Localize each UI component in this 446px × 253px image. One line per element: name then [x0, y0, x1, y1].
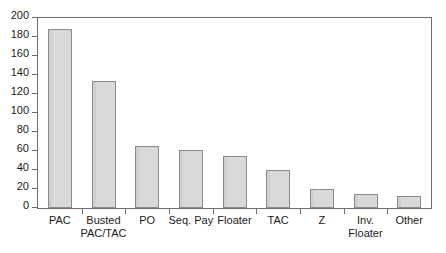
bar: [223, 156, 247, 208]
bar: [92, 81, 116, 208]
x-axis-labels: PACBusted PAC/TACPOSeq. PayFloaterTACZIn…: [38, 214, 431, 252]
x-axis-category-label: Other: [381, 214, 437, 227]
bar-highlight: [224, 157, 227, 207]
bar: [135, 146, 159, 208]
y-axis-tick-label: 140: [11, 67, 29, 78]
y-axis-tick-label: 60: [17, 143, 29, 154]
y-axis-tick-label: 120: [11, 86, 29, 97]
y-axis-tick-label: 0: [23, 200, 29, 211]
y-axis-tick-label: 80: [17, 124, 29, 135]
bar: [310, 189, 334, 208]
bar-highlight: [311, 190, 314, 207]
y-axis-tick-label: 20: [17, 181, 29, 192]
bar: [397, 196, 421, 208]
bar-highlight: [180, 151, 183, 207]
bar-highlight: [398, 197, 401, 207]
y-axis-tick-label: 160: [11, 48, 29, 59]
bar: [48, 29, 72, 208]
bar: [354, 194, 378, 208]
y-axis: 020406080100120140160180200: [0, 17, 37, 209]
bar: [179, 150, 203, 208]
y-axis-tick-label: 180: [11, 29, 29, 40]
bars-container: [38, 18, 431, 208]
bar-highlight: [136, 147, 139, 207]
bar-highlight: [49, 30, 52, 207]
y-axis-tick-label: 40: [17, 162, 29, 173]
bar-highlight: [355, 195, 358, 207]
bar: [266, 170, 290, 208]
bar-highlight: [93, 82, 96, 207]
y-axis-tick-label: 100: [11, 105, 29, 116]
y-axis-tick-label: 200: [11, 10, 29, 21]
bar-chart: 020406080100120140160180200 PACBusted PA…: [0, 0, 446, 253]
bar-highlight: [267, 171, 270, 207]
